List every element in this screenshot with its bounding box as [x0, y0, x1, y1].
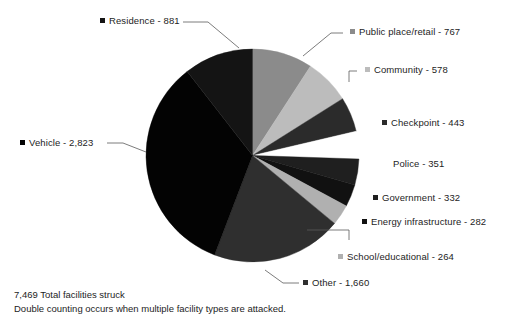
government-swatch-icon [373, 195, 378, 200]
slice-label-school: School/educational - 264 [338, 251, 454, 263]
community-swatch-icon [365, 67, 370, 72]
slice-label-vehicle: Vehicle - 2,823 [20, 137, 93, 149]
slice-label-government: Government - 332 [373, 192, 460, 204]
slice-label-other: Other - 1,660 [303, 277, 369, 289]
slice-label-residence: Residence - 881 [100, 15, 180, 27]
school-educational-swatch-icon [338, 254, 343, 259]
leader-line-residence [183, 22, 239, 48]
public-place-swatch-icon [350, 29, 355, 34]
leader-line-vehicle [107, 143, 146, 152]
slice-label-community: Community - 578 [365, 64, 448, 76]
vehicle-swatch-icon [20, 140, 25, 145]
slice-label-police: Police - 351 [393, 158, 444, 170]
slice-label-energy: Energy infrastructure - 282 [362, 216, 486, 228]
double-counting-note: Double counting occurs when multiple fac… [14, 302, 286, 316]
leader-line-community [349, 71, 357, 82]
total-facilities-line: 7,469 Total facilities struck [14, 288, 286, 302]
slice-label-public-place: Public place/retail - 767 [350, 26, 460, 38]
other-swatch-icon [303, 280, 308, 285]
slice-label-checkpoint: Checkpoint - 443 [382, 117, 464, 129]
leader-line-other [265, 270, 299, 283]
checkpoint-swatch-icon [382, 120, 387, 125]
pie-chart-figure: Residence - 881 Public place/retail - 76… [0, 0, 520, 327]
chart-footnote: 7,469 Total facilities struck Double cou… [14, 288, 286, 315]
residence-swatch-icon [100, 18, 105, 23]
leader-line-public-place [303, 33, 343, 56]
energy-infrastructure-swatch-icon [362, 219, 367, 224]
